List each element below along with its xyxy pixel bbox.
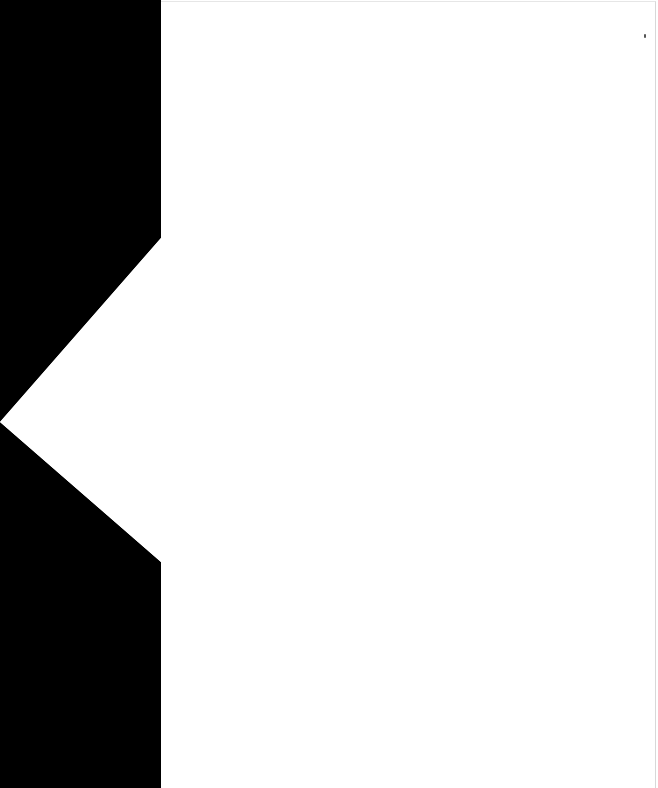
stage bbox=[0, 0, 658, 788]
blank-page bbox=[161, 1, 656, 788]
small-mark-icon bbox=[644, 34, 646, 38]
